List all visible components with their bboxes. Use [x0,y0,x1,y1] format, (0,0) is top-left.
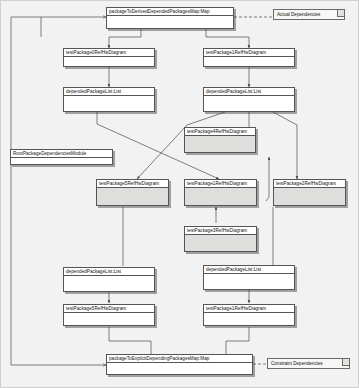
node-depended-package-list-bottom-left[interactable]: dependedPackageList:List [63,267,155,292]
node-title: testPackage4RefHwDiagram [185,128,255,136]
node-body [64,276,154,291]
node-title: testPackage1RefHwDiagram [185,180,256,188]
node-test-package1-ref-hw-diagram-bottom[interactable]: testPackage1RefHwDiagram [203,304,295,326]
node-body [64,57,154,66]
node-title: testPackage1RefHwDiagram [204,305,294,313]
note-label: Actual Dependencies [277,12,320,17]
node-test-package1-ref-hw-diagram-top[interactable]: testPackage1RefHwDiagram [203,48,295,67]
node-test-package1-ref-hw-diagram-center[interactable]: testPackage1RefHwDiagram [184,179,257,206]
node-title: dependedPackageList:List [64,268,154,276]
node-body [97,188,168,205]
note-label: Constraint Dependencies [271,361,323,366]
node-depended-package-list-bottom-right[interactable]: dependedPackageList:List [203,265,295,290]
node-title: dependedPackageList:List [204,266,294,274]
node-title: dependedPackageList:List [204,88,294,96]
node-test-package4-ref-hw-diagram[interactable]: testPackage4RefHwDiagram [184,127,256,153]
node-body [11,158,112,164]
node-title: dependedPackageList:List [64,88,154,96]
node-explicit-depending-packages-map[interactable]: packageToExplicitDependingPackagesMap:Ma… [106,354,253,375]
node-test-package3-ref-hw-diagram[interactable]: testPackage3RefHwDiagram [184,226,257,252]
node-title: testPackage2RefHwDiagram [274,180,345,188]
note-actual-dependencies: Actual Dependencies [273,9,345,20]
node-body [185,136,255,152]
node-test-package2-ref-hw-diagram[interactable]: testPackage2RefHwDiagram [273,179,346,206]
node-body [185,188,256,205]
node-body [107,16,233,28]
node-root-package-dependencies-module[interactable]: RootPackageDependenciesModule [10,149,113,165]
node-title: testPackage3RefHwDiagram [185,227,256,235]
node-test-package0-ref-hw-diagram-top[interactable]: testPackage0RefHwDiagram [63,48,155,67]
node-title: testPackage5RefHwDiagram [97,180,168,188]
node-body [64,96,154,111]
node-body [107,363,252,374]
node-body [204,57,294,66]
node-body [204,313,294,325]
node-title: packageToDerivedDependedPackagesMap:Map [107,8,233,16]
node-test-package5-ref-hw-diagram-bottom[interactable]: testPackage5RefHwDiagram [63,304,155,326]
node-title: packageToExplicitDependingPackagesMap:Ma… [107,355,252,363]
diagram-canvas: packageToDerivedDependedPackagesMap:Map … [0,0,359,388]
node-body [274,188,345,205]
node-test-package5-ref-hw-diagram-center[interactable]: testPackage5RefHwDiagram [96,179,169,206]
node-body [204,274,294,289]
note-constraint-dependencies: Constraint Dependencies [267,358,350,369]
node-title: RootPackageDependenciesModule [11,150,112,158]
node-body [204,96,294,111]
node-title: testPackage0RefHwDiagram [64,49,154,57]
node-body [64,313,154,325]
node-title: testPackage5RefHwDiagram [64,305,154,313]
node-depended-package-list-top-left[interactable]: dependedPackageList:List [63,87,155,112]
node-depended-package-list-top-right[interactable]: dependedPackageList:List [203,87,295,112]
node-derived-depended-packages-map[interactable]: packageToDerivedDependedPackagesMap:Map [106,7,234,29]
node-title: testPackage1RefHwDiagram [204,49,294,57]
node-body [185,235,256,251]
